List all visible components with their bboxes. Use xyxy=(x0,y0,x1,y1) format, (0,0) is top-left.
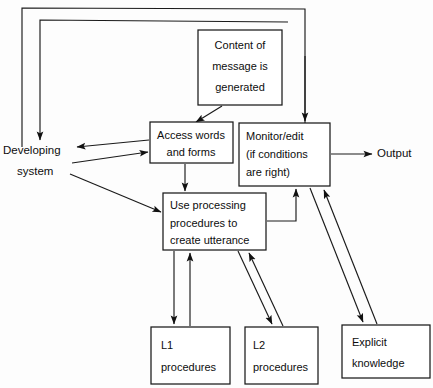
monitor-edit-line-1: Monitor/edit xyxy=(246,130,303,142)
monitor-edit-box[interactable]: Monitor/edit (if conditions are right) xyxy=(239,123,330,186)
developing-system-line-1: Developing xyxy=(3,144,61,156)
content-of-message-line-2: message is xyxy=(212,60,268,72)
l2-procedures-box[interactable]: L2 procedures xyxy=(245,327,318,384)
edge-l2-to-useproc xyxy=(249,253,283,326)
monitor-edit-line-2: (if conditions xyxy=(246,148,308,160)
access-words-line-2: and forms xyxy=(167,146,216,158)
access-words-and-forms-box[interactable]: Access words and forms xyxy=(150,122,233,163)
edge-developing-to-useproc xyxy=(70,174,161,212)
edge-content-to-access xyxy=(196,106,222,122)
access-words-line-1: Access words xyxy=(157,129,225,141)
use-processing-line-2: procedures to xyxy=(170,217,237,229)
edge-access-to-developing xyxy=(77,140,149,147)
edge-useproc-to-monitor xyxy=(267,189,296,221)
l1-procedures-line-2: procedures xyxy=(161,361,217,373)
explicit-knowledge-line-2: knowledge xyxy=(352,357,405,369)
content-of-message-line-3: generated xyxy=(215,81,265,93)
edge-useproc-to-l2 xyxy=(238,251,272,324)
content-of-message-box[interactable]: Content of message is generated xyxy=(198,30,282,105)
edge-developing-to-access xyxy=(72,152,148,163)
use-processing-line-3: create utterance xyxy=(170,234,250,246)
use-processing-procedures-box[interactable]: Use processing procedures to create utte… xyxy=(163,193,266,250)
developing-system-line-2: system xyxy=(17,165,53,177)
flowchart-svg: Content of message is generated Developi… xyxy=(0,0,433,388)
edge-explicit-to-monitor xyxy=(324,190,377,324)
l2-procedures-line-2: procedures xyxy=(253,361,309,373)
explicit-knowledge-line-1: Explicit xyxy=(352,336,387,348)
developing-system-label: Developing system xyxy=(3,144,61,177)
output-label: Output xyxy=(377,147,412,159)
output-text: Output xyxy=(377,147,412,159)
diagram-canvas: Content of message is generated Developi… xyxy=(0,0,433,388)
l2-procedures-line-1: L2 xyxy=(253,339,265,351)
l1-procedures-line-1: L1 xyxy=(161,339,173,351)
content-of-message-line-1: Content of xyxy=(215,39,267,51)
edge-monitor-to-explicit xyxy=(310,188,363,322)
use-processing-line-1: Use processing xyxy=(170,199,246,211)
node-layer: Content of message is generated Developi… xyxy=(3,30,430,384)
l1-procedures-box[interactable]: L1 procedures xyxy=(151,327,230,384)
monitor-edit-line-3: are right) xyxy=(246,166,290,178)
explicit-knowledge-box[interactable]: Explicit knowledge xyxy=(342,325,430,378)
